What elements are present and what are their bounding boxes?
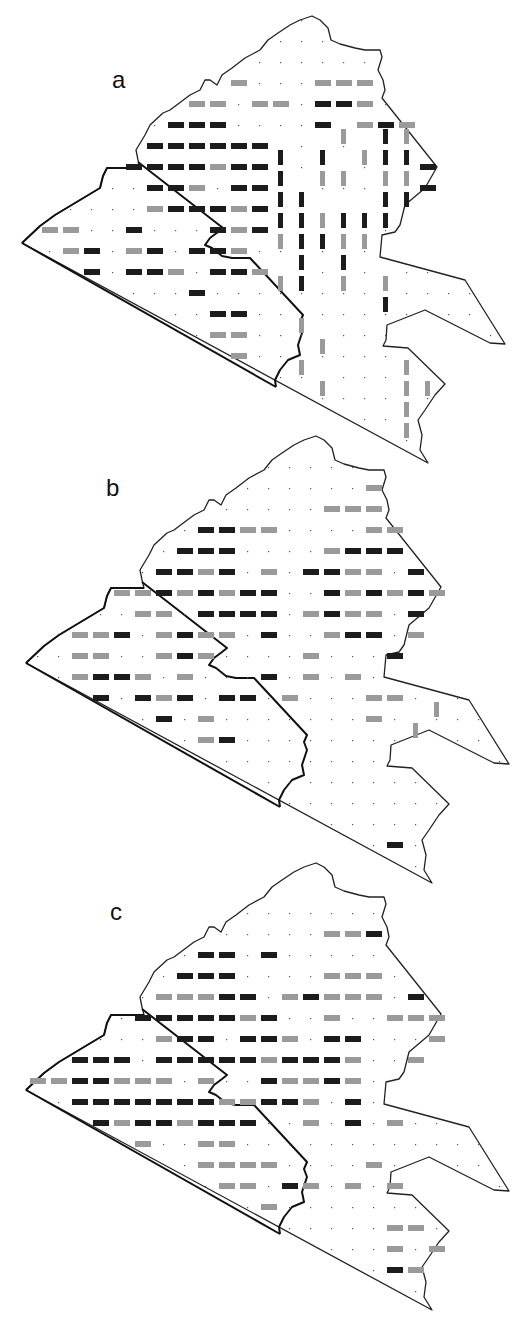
light-dash-marker [156, 632, 172, 638]
light-dash-marker [345, 506, 361, 512]
light-dash-marker [336, 80, 352, 86]
light-dash-marker [135, 590, 151, 596]
light-dash-marker [261, 527, 277, 533]
light-dash-marker [63, 227, 79, 233]
dark-dash-marker [404, 192, 409, 207]
dark-dash-marker [240, 695, 256, 701]
dark-dash-marker [219, 1015, 235, 1021]
dark-dash-marker [231, 269, 247, 275]
light-dash-marker [303, 653, 319, 659]
dark-dash-marker [93, 1120, 109, 1126]
light-dash-marker [135, 674, 151, 680]
dark-dash-marker [198, 548, 214, 554]
light-dash-marker [303, 611, 319, 617]
light-dash-marker [231, 206, 247, 212]
dark-dash-marker [177, 695, 193, 701]
dark-dash-marker [408, 590, 424, 596]
light-dash-marker [303, 1120, 319, 1126]
dark-dash-marker [147, 185, 163, 191]
light-dash-marker [240, 527, 256, 533]
light-dash-marker [387, 527, 403, 533]
light-dash-marker [177, 674, 193, 680]
dark-dash-marker [261, 611, 277, 617]
light-dash-marker [408, 1015, 424, 1021]
dark-dash-marker [362, 213, 367, 228]
dark-dash-marker [177, 1015, 193, 1021]
dark-dash-marker [93, 1057, 109, 1063]
dark-dash-marker [366, 931, 382, 937]
light-dash-marker [387, 1120, 403, 1126]
dark-dash-marker [303, 569, 319, 575]
south-border [26, 663, 280, 807]
dark-dash-marker [261, 952, 277, 958]
light-dash-marker [261, 1204, 277, 1210]
dark-dash-marker [72, 1099, 88, 1105]
dark-dash-marker [324, 1057, 340, 1063]
dark-dash-marker [219, 994, 235, 1000]
dark-dash-marker [299, 276, 304, 291]
dark-dash-marker [366, 548, 382, 554]
dark-dash-marker [156, 1015, 172, 1021]
dark-dash-marker [189, 164, 205, 170]
dark-dash-marker [198, 973, 214, 979]
dark-dash-marker [198, 527, 214, 533]
light-dash-marker [303, 1078, 319, 1084]
light-dash-marker [357, 122, 373, 128]
dark-dash-marker [324, 1078, 340, 1084]
light-dash-marker [231, 353, 247, 359]
dark-dash-marker [231, 311, 247, 317]
dark-dash-marker [72, 1078, 88, 1084]
dark-dash-marker [383, 150, 388, 165]
dark-dash-marker [383, 213, 388, 228]
dark-dash-marker [126, 269, 142, 275]
light-dash-marker [345, 611, 361, 617]
light-dash-marker [345, 590, 361, 596]
outer-outline [22, 16, 505, 463]
dark-dash-marker [315, 101, 331, 107]
light-dash-marker [341, 234, 346, 249]
west-border [26, 588, 144, 663]
dark-dash-marker [198, 1120, 214, 1126]
light-dash-marker [429, 1036, 445, 1042]
dark-dash-marker [135, 1015, 151, 1021]
dark-dash-marker [156, 1057, 172, 1063]
dark-dash-marker [378, 122, 394, 128]
dark-dash-marker [324, 569, 340, 575]
dark-dash-marker [324, 1036, 340, 1042]
dark-dash-marker [240, 590, 256, 596]
light-dash-marker [63, 248, 79, 254]
light-dash-marker [93, 632, 109, 638]
light-dash-marker [231, 248, 247, 254]
dark-dash-marker [320, 150, 325, 165]
light-dash-marker [198, 716, 214, 722]
dark-dash-marker [366, 590, 382, 596]
outer-outline [26, 436, 509, 883]
dark-dash-marker [261, 1099, 277, 1105]
panel-label-a: a [112, 66, 126, 93]
dark-dash-marker [231, 164, 247, 170]
light-dash-marker [114, 1078, 130, 1084]
light-dash-marker [345, 1057, 361, 1063]
dark-dash-marker [210, 122, 226, 128]
dark-dash-marker [156, 1099, 172, 1105]
dark-dash-marker [408, 611, 424, 617]
light-dash-marker [362, 234, 367, 249]
dark-dash-marker [282, 1183, 298, 1189]
dark-dash-marker [219, 569, 235, 575]
light-dash-marker [404, 129, 409, 144]
dark-dash-marker [147, 143, 163, 149]
dark-dash-marker [177, 1099, 193, 1105]
light-dash-marker [345, 569, 361, 575]
light-dash-marker [252, 101, 268, 107]
light-dash-marker [93, 653, 109, 659]
light-dash-marker [387, 590, 403, 596]
dark-dash-marker [231, 185, 247, 191]
light-dash-marker [320, 213, 325, 228]
dark-dash-marker [177, 1036, 193, 1042]
dark-dash-marker [299, 234, 304, 249]
light-dash-marker [219, 1162, 235, 1168]
dark-dash-marker [261, 1078, 277, 1084]
light-dash-marker [425, 381, 430, 396]
dark-dash-marker [126, 164, 142, 170]
dark-dash-marker [278, 192, 283, 207]
